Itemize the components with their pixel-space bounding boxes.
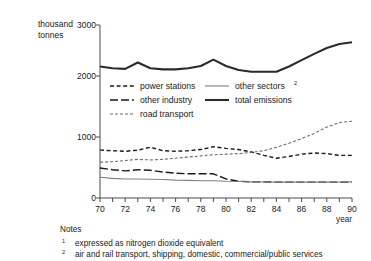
note-text-1: expressed as nitrogen dioxide equivalent — [75, 239, 224, 248]
x-tick-label-86: 86 — [297, 204, 307, 214]
notes-heading: Notes — [60, 225, 81, 234]
legend-label-total-emissions: total emissions — [235, 95, 292, 105]
y-axis-label-line2: tonnes — [38, 30, 64, 40]
legend-label-road-transport: road transport — [140, 109, 194, 119]
x-tick-label-90: 90 — [347, 204, 357, 214]
x-tick-label-74: 74 — [146, 204, 156, 214]
y-tick-label-2000: 2000 — [77, 71, 96, 81]
x-axis-ticks — [100, 198, 352, 202]
legend-superscript-other-sectors: 2 — [294, 80, 297, 86]
x-tick-label-72: 72 — [120, 204, 130, 214]
note-marker-1: 1 — [62, 238, 65, 244]
note-marker-2: 2 — [62, 249, 65, 255]
emissions-line-chart: thousand tonnes 3000 2000 1000 0 7072747… — [0, 0, 371, 261]
x-tick-label-76: 76 — [171, 204, 181, 214]
x-tick-label-84: 84 — [272, 204, 282, 214]
note-text-2: air and rail transport, shipping, domest… — [75, 250, 323, 259]
x-tick-label-82: 82 — [246, 204, 256, 214]
legend-label-other-sectors: other sectors — [235, 81, 285, 91]
y-tick-label-0: 0 — [91, 193, 96, 203]
x-tick-label-80: 80 — [221, 204, 231, 214]
legend-label-power-stations: power stations — [140, 81, 195, 91]
y-tick-label-3000: 3000 — [77, 20, 96, 30]
x-axis-label: year — [336, 215, 352, 224]
y-tick-label-1000: 1000 — [77, 132, 96, 142]
x-tick-label-70: 70 — [95, 204, 105, 214]
x-tick-label-88: 88 — [322, 204, 332, 214]
y-axis-label-line1: thousand — [38, 19, 73, 29]
x-tick-label-78: 78 — [196, 204, 206, 214]
legend-label-other-industry: other industry — [140, 95, 193, 105]
